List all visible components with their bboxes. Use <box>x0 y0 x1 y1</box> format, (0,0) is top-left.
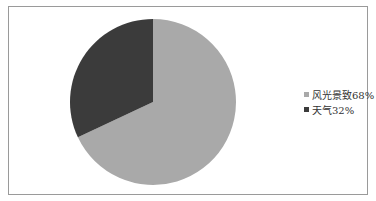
legend: 风光景致68% 天气32% <box>304 87 374 117</box>
legend-item-scenery: 风光景致68% <box>304 87 374 102</box>
legend-label-scenery: 风光景致68% <box>312 87 374 102</box>
legend-label-weather: 天气32% <box>312 102 354 117</box>
legend-swatch-weather <box>304 107 309 112</box>
legend-item-weather: 天气32% <box>304 102 374 117</box>
legend-swatch-scenery <box>304 92 309 97</box>
